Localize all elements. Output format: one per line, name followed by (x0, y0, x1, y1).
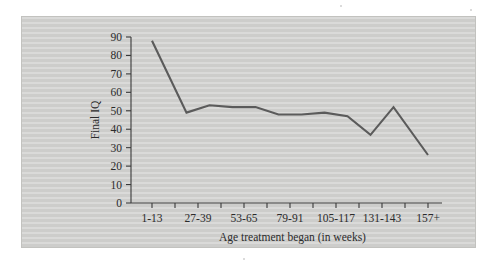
x-tick-label: 131-143 (363, 212, 402, 224)
y-tick-label: 60 (111, 86, 123, 98)
y-axis-title: Final IQ (89, 100, 101, 139)
x-tick-label: 53-65 (231, 212, 258, 224)
y-tick-label: 30 (111, 142, 123, 154)
y-tick-label: 40 (111, 123, 123, 135)
y-tick-label: 80 (111, 49, 123, 61)
y-tick-label: 20 (111, 160, 123, 172)
x-tick-label: 79-91 (277, 212, 304, 224)
y-tick-label: 70 (111, 68, 123, 80)
chart-panel: 01020304050607080901-1327-3953-6579-9110… (21, 16, 476, 248)
line-chart: 01020304050607080901-1327-3953-6579-9110… (22, 17, 477, 249)
y-tick-label: 50 (111, 105, 123, 117)
x-tick-label: 27-39 (185, 212, 212, 224)
figure-container: 01020304050607080901-1327-3953-6579-9110… (0, 0, 496, 264)
scan-speck (470, 9, 472, 11)
scan-speck (340, 5, 342, 7)
y-tick-label: 0 (116, 197, 122, 209)
x-tick-label: 157+ (416, 212, 440, 224)
y-tick-label: 10 (111, 179, 123, 191)
x-axis-title: Age treatment began (in weeks) (219, 231, 366, 244)
x-tick-label: 1-13 (141, 212, 162, 224)
scan-speck (243, 258, 245, 260)
y-tick-label: 90 (111, 31, 123, 43)
data-series-line (152, 41, 428, 155)
x-tick-label: 105-117 (317, 212, 355, 224)
